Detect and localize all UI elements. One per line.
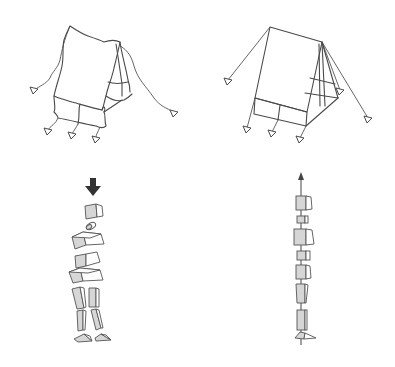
aligned-body <box>0 0 395 367</box>
